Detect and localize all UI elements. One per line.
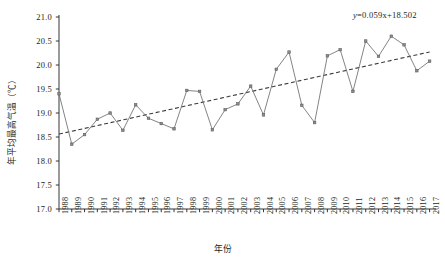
data-series-line — [59, 36, 430, 144]
x-axis-tick-label: 1996 — [164, 197, 172, 214]
y-axis-tick-label: 17.5 — [20, 181, 52, 190]
data-point-marker — [122, 129, 125, 132]
x-axis-tick-label: 2005 — [279, 197, 287, 214]
y-axis-tick-label: 17.0 — [20, 205, 52, 214]
data-point-marker — [339, 48, 342, 51]
data-point-marker — [249, 85, 252, 88]
data-point-marker — [186, 89, 189, 92]
x-axis-tick-label: 2006 — [292, 197, 300, 214]
x-axis-title: 年份 — [0, 245, 445, 254]
data-point-marker — [352, 90, 355, 93]
data-point-marker — [237, 103, 240, 106]
data-point-marker — [224, 108, 227, 111]
x-axis-tick-label: 1993 — [126, 197, 134, 214]
data-point-marker — [198, 90, 201, 93]
x-axis-tick-label: 2001 — [228, 197, 236, 214]
y-axis-tick-label: 18.5 — [20, 133, 52, 142]
data-point-marker — [147, 117, 150, 120]
y-axis-ticks — [56, 17, 59, 209]
x-axis-tick-label: 1998 — [190, 197, 198, 214]
data-point-marker — [301, 104, 304, 107]
x-axis-tick-label: 1999 — [203, 197, 211, 214]
x-axis-tick-label: 2007 — [305, 197, 313, 214]
data-point-marker — [390, 35, 393, 38]
data-point-marker — [416, 70, 419, 73]
data-point-marker — [275, 68, 278, 71]
x-axis-tick-label: 1990 — [88, 197, 96, 214]
trend-equation-annotation: y=0.059x+18.502 — [353, 11, 417, 20]
x-axis-tick-label: 2014 — [394, 197, 402, 214]
chart-canvas — [0, 0, 445, 259]
x-axis-tick-label: 1992 — [113, 197, 121, 214]
data-point-marker — [288, 51, 291, 54]
x-axis-tick-label: 1988 — [62, 197, 70, 214]
data-point-marker — [211, 129, 214, 132]
x-axis-tick-label: 1997 — [177, 197, 185, 214]
data-point-marker — [173, 128, 176, 131]
x-axis-tick-label: 2009 — [331, 197, 339, 214]
x-axis-tick-label: 2000 — [216, 197, 224, 214]
x-axis-tick-label: 2012 — [369, 197, 377, 214]
x-axis-tick-label: 1989 — [75, 197, 83, 214]
y-axis-title: 年平均最高气温（℃） — [8, 75, 17, 165]
x-axis-tick-label: 1991 — [101, 197, 109, 214]
data-point-marker — [377, 55, 380, 58]
x-axis-tick-label: 2008 — [318, 197, 326, 214]
data-point-marker — [83, 133, 86, 136]
data-point-marker — [71, 143, 74, 146]
y-axis-tick-label: 20.5 — [20, 37, 52, 46]
trend-line — [59, 52, 430, 134]
x-axis-tick-label: 2002 — [241, 197, 249, 214]
data-point-marker — [96, 118, 99, 121]
x-axis-tick-label: 1994 — [139, 197, 147, 214]
x-axis-tick-label: 1995 — [152, 197, 160, 214]
x-axis-tick-label: 2003 — [254, 197, 262, 214]
data-point-marker — [134, 104, 137, 107]
data-point-marker — [58, 93, 61, 96]
y-axis-tick-label: 20.0 — [20, 61, 52, 70]
data-point-marker — [428, 60, 431, 63]
data-point-marker — [364, 40, 367, 43]
x-axis-tick-label: 2017 — [433, 197, 441, 214]
x-axis-tick-label: 2010 — [343, 197, 351, 214]
y-axis-tick-label: 21.0 — [20, 13, 52, 22]
data-point-marker — [326, 55, 329, 58]
x-axis-tick-label: 2015 — [407, 197, 415, 214]
x-axis-tick-label: 2013 — [382, 197, 390, 214]
x-axis-tick-label: 2016 — [420, 197, 428, 214]
data-point-marker — [313, 121, 316, 124]
y-axis-tick-label: 19.5 — [20, 85, 52, 94]
data-point-marker — [109, 112, 112, 115]
x-axis-tick-label: 2011 — [356, 197, 364, 214]
axes — [56, 15, 436, 212]
data-point-marker — [262, 114, 265, 117]
data-point-marker — [403, 44, 406, 47]
x-axis-tick-label: 2004 — [267, 197, 275, 214]
y-axis-tick-label: 18.0 — [20, 157, 52, 166]
data-point-marker — [160, 122, 163, 125]
temperature-trend-chart: 17.017.518.018.519.019.520.020.521.0 198… — [0, 0, 445, 259]
y-axis-tick-label: 19.0 — [20, 109, 52, 118]
